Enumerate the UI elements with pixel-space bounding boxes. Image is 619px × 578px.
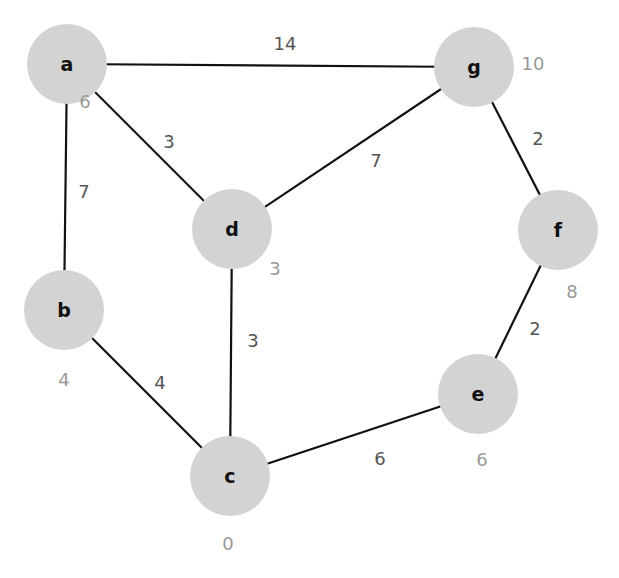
edge-weight-a-d: 3 (163, 131, 174, 152)
node-label-f: f (554, 219, 563, 241)
node-label-g: g (467, 56, 481, 78)
edge-weight-f-e: 2 (529, 318, 540, 339)
distance-label-a: 6 (79, 91, 90, 112)
nodes-layer: agdfbec (24, 24, 598, 516)
edge-weight-a-b: 7 (78, 181, 89, 202)
node-f: f (518, 190, 598, 270)
edge-weight-g-d: 7 (370, 150, 381, 171)
node-label-b: b (57, 299, 71, 321)
edge-a-g (67, 64, 474, 67)
distance-label-b: 4 (58, 369, 69, 390)
node-b: b (24, 270, 104, 350)
edge-weight-b-c: 4 (154, 372, 165, 393)
distance-label-d: 3 (269, 258, 280, 279)
graph-diagram: 1437723426 agdfbec 61038460 (0, 0, 619, 578)
distance-labels-layer: 61038460 (58, 53, 577, 554)
node-label-e: e (472, 383, 485, 405)
node-label-d: d (225, 218, 239, 240)
distance-label-c: 0 (222, 533, 233, 554)
node-c: c (190, 436, 270, 516)
distance-label-g: 10 (522, 53, 545, 74)
node-label-c: c (224, 465, 235, 487)
node-d: d (192, 189, 272, 269)
distance-label-e: 6 (476, 449, 487, 470)
node-label-a: a (61, 53, 74, 75)
node-e: e (438, 354, 518, 434)
node-g: g (434, 27, 514, 107)
node-a: a (27, 24, 107, 104)
distance-label-f: 8 (566, 281, 577, 302)
edge-weight-d-c: 3 (247, 330, 258, 351)
edge-weight-g-f: 2 (532, 128, 543, 149)
edge-weight-a-g: 14 (274, 33, 297, 54)
edge-g-d (232, 67, 474, 229)
edge-weight-c-e: 6 (374, 448, 385, 469)
